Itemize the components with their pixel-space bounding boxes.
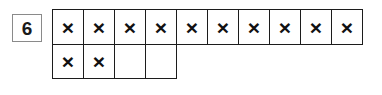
- tally-cell[interactable]: ×: [269, 9, 301, 45]
- cross-icon: ×: [84, 10, 114, 44]
- tally-cell[interactable]: ×: [176, 9, 208, 45]
- tally-cell[interactable]: ×: [145, 9, 177, 45]
- tally-cell[interactable]: ×: [207, 9, 239, 45]
- tally-cell[interactable]: ×: [52, 9, 84, 45]
- cross-icon: ×: [177, 10, 207, 44]
- cross-icon: ×: [115, 10, 145, 44]
- tally-grid-top-row: × × × × × × × × × ×: [52, 9, 363, 45]
- tally-cell-empty[interactable]: [114, 44, 146, 79]
- tally-cell[interactable]: ×: [238, 9, 270, 45]
- tally-cell[interactable]: ×: [83, 9, 115, 45]
- cross-icon: ×: [270, 10, 300, 44]
- tally-cell[interactable]: ×: [52, 44, 84, 79]
- cross-icon: ×: [208, 10, 238, 44]
- item-number-box: 6: [12, 14, 42, 42]
- tally-grid-bottom-row: × ×: [52, 44, 363, 79]
- cross-icon: ×: [53, 10, 83, 44]
- cross-icon: ×: [84, 45, 114, 78]
- tally-worksheet: 6 × × × × × × × × × × × ×: [0, 0, 382, 95]
- tally-cell[interactable]: ×: [83, 44, 115, 79]
- tally-cell[interactable]: ×: [331, 9, 363, 45]
- tally-cell-empty[interactable]: [145, 44, 177, 79]
- cross-icon: ×: [239, 10, 269, 44]
- cross-icon: ×: [301, 10, 331, 44]
- cross-icon: ×: [146, 10, 176, 44]
- cross-icon: ×: [53, 45, 83, 78]
- tally-grid: × × × × × × × × × × × ×: [52, 9, 363, 79]
- tally-cell[interactable]: ×: [300, 9, 332, 45]
- item-number-label: 6: [13, 15, 41, 41]
- cross-icon: ×: [332, 10, 362, 44]
- tally-cell[interactable]: ×: [114, 9, 146, 45]
